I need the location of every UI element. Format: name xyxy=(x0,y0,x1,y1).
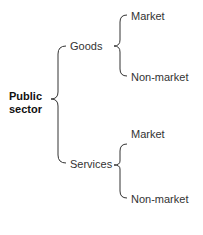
root-label-line2: sector xyxy=(9,103,42,116)
goods-nonmarket-label: Non-market xyxy=(131,71,188,83)
root-label: Public sector xyxy=(9,90,42,116)
root-brace xyxy=(51,46,66,163)
services-brace xyxy=(114,144,127,198)
goods-label: Goods xyxy=(70,40,102,52)
services-label: Services xyxy=(70,158,112,170)
root-label-line1: Public xyxy=(9,90,42,103)
goods-brace xyxy=(114,15,127,76)
goods-market-label: Market xyxy=(131,10,165,22)
services-market-label: Market xyxy=(131,128,165,140)
services-nonmarket-label: Non-market xyxy=(131,193,188,205)
